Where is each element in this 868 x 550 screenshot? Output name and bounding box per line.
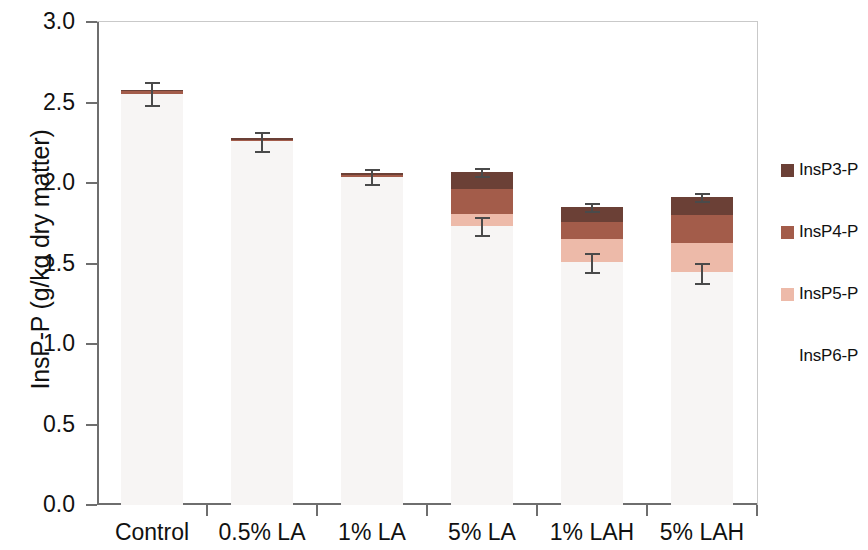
bar-segment-insp6-p: [561, 262, 623, 505]
x-axis-tick-label: 1% LA: [338, 519, 406, 546]
y-axis-tick: [86, 102, 97, 104]
x-axis-tick: [206, 505, 208, 516]
error-bar-line: [371, 170, 373, 184]
x-axis-tick: [756, 505, 758, 516]
x-axis-tick: [426, 505, 428, 516]
error-bar-cap-top: [585, 253, 600, 255]
plot-area: [97, 22, 757, 505]
error-bar-line: [481, 218, 483, 236]
y-axis-tick: [86, 263, 97, 265]
error-bar-cap-top: [365, 169, 380, 171]
legend-item-label: InsP3-P: [799, 160, 858, 180]
bar-segment-insp6-p: [121, 94, 183, 505]
y-axis-tick: [86, 182, 97, 184]
y-axis-tick: [86, 424, 97, 426]
x-axis-tick: [646, 505, 648, 516]
bar-segment-insp4-p: [451, 189, 513, 213]
legend-swatch-icon: [781, 288, 794, 301]
bar-segment-insp4-p: [561, 222, 623, 240]
error-bar-cap-bottom: [695, 283, 710, 285]
error-bar-cap-bottom: [255, 151, 270, 153]
error-bar-cap-bottom: [695, 201, 710, 203]
y-axis-tick-label: 0.5: [5, 411, 75, 438]
legend-swatch-icon: [781, 350, 794, 363]
x-axis-tick: [536, 505, 538, 516]
error-bar-line: [261, 133, 263, 152]
legend-swatch-icon: [781, 226, 794, 239]
y-axis-tick-label: 2.5: [5, 89, 75, 116]
error-bar-cap-top: [255, 132, 270, 134]
legend-item-insp3-p: InsP3-P: [781, 160, 858, 180]
x-axis-tick-label: 5% LAH: [660, 519, 744, 546]
plot-right-border: [757, 22, 758, 506]
error-bar-cap-bottom: [475, 235, 490, 237]
error-bar-cap-top: [475, 217, 490, 219]
bar-segment-insp6-p: [671, 272, 733, 505]
x-axis-tick: [316, 505, 318, 516]
bar-segment-insp6-p: [231, 141, 293, 505]
legend-item-insp5-p: InsP5-P: [781, 284, 858, 304]
bar-1-lah: [561, 207, 623, 505]
error-bar-cap-bottom: [585, 211, 600, 213]
error-bar-cap-top: [475, 168, 490, 170]
stacked-bar-chart: InsP-P (g/kg dry matter) 0.00.51.01.52.0…: [0, 0, 868, 550]
error-bar-cap-bottom: [585, 272, 600, 274]
y-axis-tick: [86, 21, 97, 23]
y-axis-tick: [86, 504, 97, 506]
legend-item-label: InsP4-P: [799, 222, 858, 242]
legend-item-insp4-p: InsP4-P: [781, 222, 858, 242]
bar-segment-insp6-p: [451, 226, 513, 505]
error-bar-line: [151, 83, 153, 106]
y-axis-tick: [86, 343, 97, 345]
error-bar-cap-top: [695, 193, 710, 195]
x-axis-tick-label: 0.5% LA: [219, 519, 306, 546]
error-bar-cap-bottom: [145, 105, 160, 107]
bar-0-5-la: [231, 138, 293, 505]
error-bar-cap-top: [585, 203, 600, 205]
legend-swatch-icon: [781, 164, 794, 177]
error-bar-line: [701, 264, 703, 285]
error-bar-cap-bottom: [475, 176, 490, 178]
legend-item-insp6-p: InsP6-P: [781, 346, 858, 366]
bar-segment-insp6-p: [341, 177, 403, 505]
legend-item-label: InsP5-P: [799, 284, 858, 304]
error-bar-cap-top: [145, 82, 160, 84]
bar-1-la: [341, 173, 403, 505]
x-axis-tick-label: Control: [115, 519, 189, 546]
bar-5-lah: [671, 197, 733, 505]
error-bar-line: [591, 254, 593, 273]
y-axis-tick-label: 1.0: [5, 330, 75, 357]
error-bar-cap-bottom: [365, 184, 380, 186]
y-axis-tick-label: 3.0: [5, 8, 75, 35]
legend-item-label: InsP6-P: [799, 346, 858, 366]
y-axis-tick-label: 1.5: [5, 250, 75, 277]
bar-control: [121, 90, 183, 505]
error-bar-cap-top: [695, 263, 710, 265]
bar-segment-insp4-p: [671, 215, 733, 242]
y-axis-tick-label: 0.0: [5, 491, 75, 518]
x-axis-tick-label: 1% LAH: [550, 519, 634, 546]
y-axis-tick-label: 2.0: [5, 169, 75, 196]
x-axis-tick-label: 5% LA: [448, 519, 516, 546]
